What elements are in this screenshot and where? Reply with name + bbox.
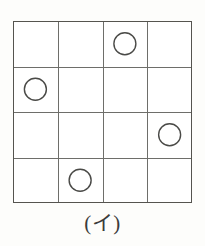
grid-svg bbox=[13, 21, 192, 203]
figure-caption: (イ) bbox=[0, 208, 205, 238]
grid-container bbox=[13, 21, 192, 203]
figure-root: (イ) bbox=[0, 0, 205, 246]
